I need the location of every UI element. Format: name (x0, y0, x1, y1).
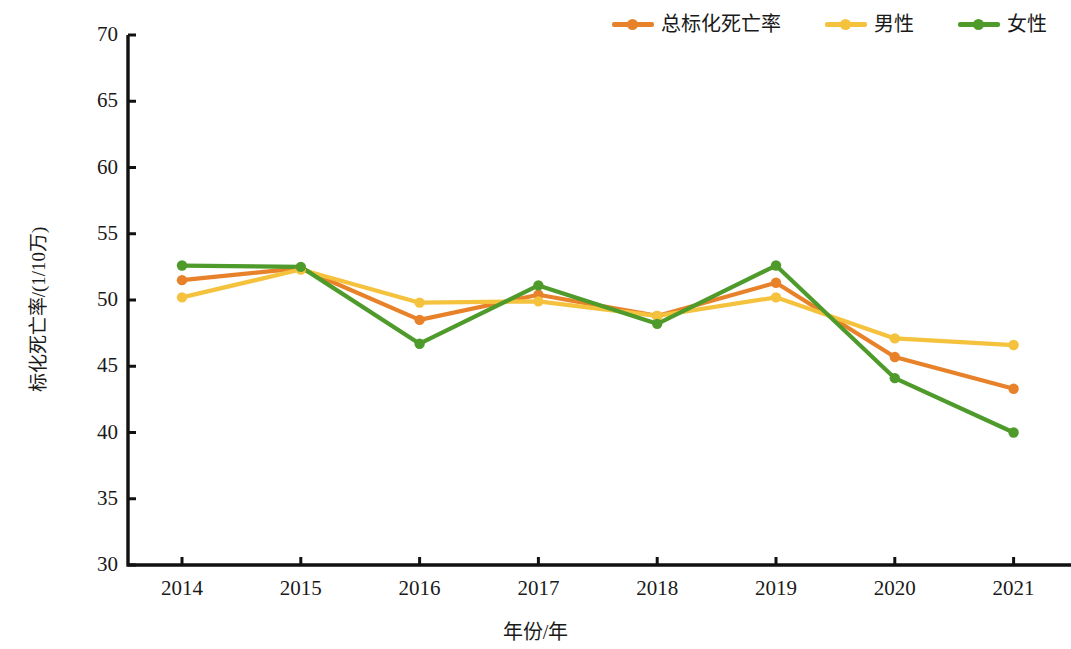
y-tick-label: 30 (72, 554, 118, 575)
data-point (177, 260, 187, 270)
y-tick-label: 50 (72, 289, 118, 310)
data-point (771, 278, 781, 288)
line-chart: 总标化死亡率 男性 女性 706560555045403530 20142015… (0, 0, 1071, 649)
data-point (533, 296, 543, 306)
data-point (414, 297, 424, 307)
data-point (1008, 384, 1018, 394)
x-tick-label: 2014 (132, 578, 232, 599)
data-point (177, 292, 187, 302)
data-point (177, 275, 187, 285)
x-tick-label: 2016 (370, 578, 470, 599)
data-point (771, 292, 781, 302)
axis-spine (128, 35, 1071, 565)
x-tick-label: 2015 (251, 578, 351, 599)
data-point (890, 352, 900, 362)
x-tick-label: 2020 (845, 578, 945, 599)
x-tick-label: 2018 (607, 578, 707, 599)
series-line-2 (182, 266, 1014, 433)
y-tick-label: 35 (72, 488, 118, 509)
data-point (890, 373, 900, 383)
data-point (296, 262, 306, 272)
data-point (890, 333, 900, 343)
x-tick-label: 2017 (488, 578, 588, 599)
data-point (414, 339, 424, 349)
y-axis-ticks: 706560555045403530 (66, 0, 118, 649)
data-point (1008, 340, 1018, 350)
y-tick-label: 40 (72, 422, 118, 443)
y-tick-label: 60 (72, 157, 118, 178)
y-tick-label: 55 (72, 223, 118, 244)
data-point (771, 260, 781, 270)
data-point (533, 280, 543, 290)
x-tick-label: 2019 (726, 578, 826, 599)
y-tick-label: 65 (72, 90, 118, 111)
plot-area (0, 0, 1071, 649)
data-point (652, 319, 662, 329)
y-axis-title: 标化死亡率/(1/10万) (29, 100, 48, 520)
series-line-1 (182, 270, 1014, 346)
data-point (1008, 427, 1018, 437)
data-point (414, 315, 424, 325)
y-tick-label: 45 (72, 355, 118, 376)
y-tick-label: 70 (72, 24, 118, 45)
x-axis-title: 年份/年 (0, 622, 1071, 642)
x-tick-label: 2021 (964, 578, 1064, 599)
